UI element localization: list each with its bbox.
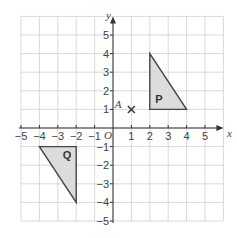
- origin-label: O: [104, 129, 112, 141]
- x-axis-arrow-icon: [216, 125, 223, 131]
- x-tick-label: 4: [184, 130, 190, 142]
- triangle-p-label: P: [155, 93, 162, 105]
- y-tick-label: −2: [96, 159, 109, 171]
- y-tick-label: −4: [96, 196, 109, 208]
- x-tick-label: −4: [33, 130, 46, 142]
- triangle-q-label: Q: [63, 149, 72, 161]
- coordinate-diagram: −5−4−3−2−112345−5−4−3−2−112345 PQ A x y …: [0, 0, 237, 238]
- y-tick-label: −3: [96, 178, 109, 190]
- y-tick-label: 2: [103, 85, 109, 97]
- x-tick-label: 3: [165, 130, 171, 142]
- x-tick-label: −3: [52, 130, 65, 142]
- grid: [21, 16, 223, 221]
- y-tick-label: 3: [103, 66, 109, 78]
- y-tick-label: 1: [103, 103, 109, 115]
- axes: [19, 16, 223, 223]
- y-tick-label: 4: [103, 48, 109, 60]
- y-tick-label: −1: [96, 141, 109, 153]
- x-tick-label: 1: [128, 130, 134, 142]
- x-tick-label: −5: [15, 130, 28, 142]
- x-tick-label: 5: [202, 130, 208, 142]
- y-tick-label: −5: [96, 215, 109, 227]
- x-tick-label: 2: [147, 130, 153, 142]
- point-a-label: A: [114, 98, 122, 110]
- x-tick-label: −2: [70, 130, 83, 142]
- y-axis-arrow-icon: [110, 16, 116, 23]
- x-axis-label: x: [226, 127, 232, 139]
- y-axis-label: y: [105, 9, 111, 21]
- y-tick-label: 5: [103, 29, 109, 41]
